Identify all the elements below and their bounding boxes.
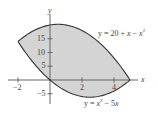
upper-label-sup: 2 [143,28,146,33]
y-tick-label: −5 [37,90,46,98]
x-axis-label: x [141,76,145,84]
x-tick-label: 2 [80,84,84,92]
y-tick-label: 10 [37,49,45,57]
upper-label-minus: − [131,29,140,38]
region-plot [0,0,158,114]
x-tick-label: −2 [13,84,22,92]
upper-label-prefix: y = 20 + [98,29,127,38]
y-axis-label: y [48,7,52,15]
x-tick-label: 4 [112,84,116,92]
lower-label-mid: − 5 [103,99,116,108]
upper-curve-label: y = 20 + x − x2 [98,28,145,38]
lower-label-prefix: y = [84,99,97,108]
lower-label-x2: x [115,99,119,108]
y-tick-label: 5 [42,62,46,70]
y-tick-label: 15 [37,35,45,43]
lower-curve-label: y = x2 − 5x [84,98,119,108]
